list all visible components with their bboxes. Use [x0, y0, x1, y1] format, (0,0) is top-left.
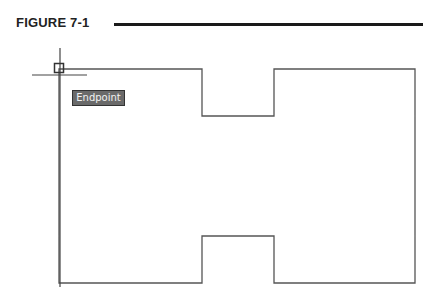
- drawing-canvas[interactable]: [0, 0, 439, 298]
- crosshair-cursor-icon: [32, 48, 87, 287]
- snap-tooltip: Endpoint: [72, 90, 125, 106]
